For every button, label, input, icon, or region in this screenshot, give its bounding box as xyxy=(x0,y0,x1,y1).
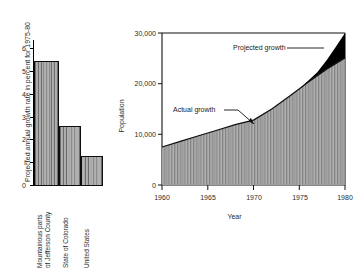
bar-mountainous-jefferson-county[interactable] xyxy=(34,61,59,187)
bar-state-of-colorado[interactable] xyxy=(59,126,81,187)
bar-chart-tick-label-0: 0 xyxy=(16,182,26,189)
figure-two-panel-growth-charts: Projected annual growth rate in percent … xyxy=(0,0,359,274)
bar-category-label-colorado: State of Colorado xyxy=(62,217,70,268)
bar-category-label-united-states: United States xyxy=(83,229,91,268)
bar-chart-tick-label-2: 2 xyxy=(16,136,26,143)
annotation-actual-growth: Actual growth xyxy=(173,106,215,114)
bar-category-label-mountainous-line2: of Jefferson County xyxy=(44,212,52,268)
bar-chart-panel: Projected annual growth rate in percent … xyxy=(0,0,120,274)
area-chart-plot-svg xyxy=(110,0,359,200)
bar-chart-tick-6 xyxy=(30,48,34,49)
bar-chart-plot-area: 6 5 4 3 2 I 0 xyxy=(33,40,103,186)
bar-chart-tick-label-3: 3 xyxy=(16,114,26,121)
bar-chart-tick-label-4: 4 xyxy=(16,91,26,98)
bar-chart-tick-label-1: I xyxy=(16,159,26,166)
bar-united-states[interactable] xyxy=(81,156,103,186)
bar-category-label-mountainous-line1: Mountainous parts xyxy=(36,212,44,268)
area-chart-actual-growth-region[interactable] xyxy=(162,58,345,185)
annotation-projected-growth: Projected growth xyxy=(233,44,286,52)
area-chart-x-axis-title: Year xyxy=(110,213,359,220)
bar-category-label-colorado-line1: State of Colorado xyxy=(62,217,70,268)
bar-category-label-mountainous: Mountainous parts of Jefferson County xyxy=(36,212,51,268)
bar-category-label-united-states-line1: United States xyxy=(83,229,91,268)
bar-chart-tick-label-6: 6 xyxy=(16,45,26,52)
bar-chart-tick-label-5: 5 xyxy=(16,68,26,75)
area-chart-panel: Population Year 30,000 20,000 10,000 0 1… xyxy=(110,0,359,274)
